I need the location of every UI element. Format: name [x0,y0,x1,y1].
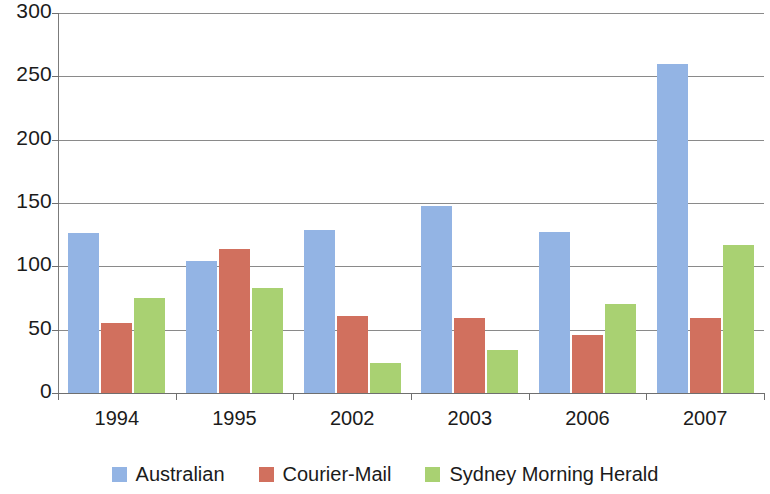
x-tick-mark-origin [58,393,59,400]
bar-2003-courier-mail [454,318,485,393]
bar-group-2006 [529,13,647,393]
bar-2006-australian [539,232,570,393]
legend-label: Courier-Mail [283,463,392,486]
bar-2002-courier-mail [337,316,368,393]
bar-2006-courier-mail [572,335,603,393]
legend-item-australian[interactable]: Australian [112,463,225,486]
bar-2007-australian [657,64,688,393]
bar-1995-australian [186,261,217,393]
legend-label: Australian [136,463,225,486]
chart-legend: AustralianCourier-MailSydney Morning Her… [0,458,770,490]
bar-group-2003 [411,13,529,393]
y-tick-label-300: 300 [0,0,52,23]
y-tick-label-200: 200 [0,126,52,150]
bar-2006-sydney-morning-herald [605,304,636,393]
x-tick-label-2003: 2003 [415,407,525,430]
bar-group-1994 [58,13,176,393]
bar-1995-sydney-morning-herald [252,288,283,393]
x-tick-mark-2006 [646,393,647,400]
bar-group-1995 [176,13,294,393]
bar-2002-sydney-morning-herald [370,363,401,393]
x-tick-mark-1995 [293,393,294,400]
x-tick-label-1994: 1994 [62,407,172,430]
x-tick-label-2002: 2002 [297,407,407,430]
x-tick-label-2007: 2007 [650,407,760,430]
x-tick-label-2006: 2006 [533,407,643,430]
bar-2003-sydney-morning-herald [487,350,518,393]
bar-chart: 050100150200250300 199419952002200320062… [0,0,770,494]
legend-swatch-icon [259,467,274,482]
bar-2007-courier-mail [690,318,721,393]
legend-item-sydney-morning-herald[interactable]: Sydney Morning Herald [425,463,658,486]
x-tick-mark-1994 [176,393,177,400]
bar-2002-australian [304,230,335,393]
bar-group-2002 [293,13,411,393]
bar-2007-sydney-morning-herald [723,245,754,393]
x-tick-label-1995: 1995 [180,407,290,430]
bar-group-2007 [646,13,764,393]
y-tick-label-250: 250 [0,62,52,86]
legend-swatch-icon [425,467,440,482]
legend-item-courier-mail[interactable]: Courier-Mail [259,463,392,486]
x-tick-mark-2002 [411,393,412,400]
bar-groups [58,13,764,393]
x-tick-mark-2007 [764,393,765,400]
legend-swatch-icon [112,467,127,482]
bar-1994-australian [68,233,99,393]
bar-2003-australian [421,206,452,393]
y-tick-label-50: 50 [0,316,52,340]
x-tick-mark-2003 [529,393,530,400]
y-tick-label-0: 0 [0,379,52,403]
bar-1994-courier-mail [101,323,132,393]
y-tick-label-100: 100 [0,252,52,276]
legend-label: Sydney Morning Herald [449,463,658,486]
bar-1995-courier-mail [219,249,250,393]
y-tick-label-150: 150 [0,189,52,213]
bar-1994-sydney-morning-herald [134,298,165,393]
